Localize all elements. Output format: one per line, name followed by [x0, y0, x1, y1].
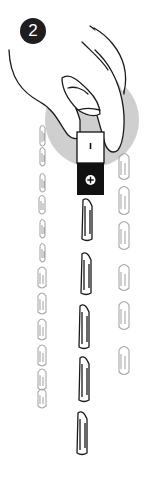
- paperclip-icon: [38, 267, 46, 288]
- left-faded-clip-chain: [38, 126, 46, 409]
- illustration-graphic: [0, 0, 147, 485]
- paperclip-icon: [82, 199, 92, 241]
- paperclip-icon: [119, 347, 129, 375]
- paperclip-icon: [40, 174, 45, 193]
- paperclip-icon: [40, 148, 45, 167]
- paperclip-icon: [119, 265, 129, 291]
- paperclip-icon: [38, 389, 46, 408]
- paperclip-icon: [38, 319, 46, 340]
- paperclip-icon: [38, 369, 46, 390]
- paperclip-icon: [119, 187, 129, 215]
- paperclip-icon: [39, 196, 45, 215]
- paperclip-icon: [40, 244, 45, 263]
- hand-drawing: [9, 26, 126, 152]
- magnet: [77, 132, 104, 195]
- paperclip-icon: [38, 293, 46, 314]
- center-clip-chain: [77, 199, 92, 455]
- paperclip-icon: [119, 222, 129, 250]
- paperclip-icon: [81, 253, 91, 295]
- paperclip-icon: [38, 345, 46, 366]
- right-faded-clip-chain: [119, 154, 129, 375]
- paperclip-icon: [119, 302, 129, 330]
- step-number-badge: 2: [20, 18, 46, 44]
- paperclip-icon: [79, 305, 89, 349]
- paperclip-icon: [77, 412, 87, 455]
- paperclip-icon: [119, 154, 129, 180]
- magnet-paperclip-illustration: 2: [0, 0, 147, 485]
- paperclip-icon: [79, 357, 89, 402]
- paperclip-icon: [40, 220, 45, 239]
- paperclip-icon: [40, 126, 45, 147]
